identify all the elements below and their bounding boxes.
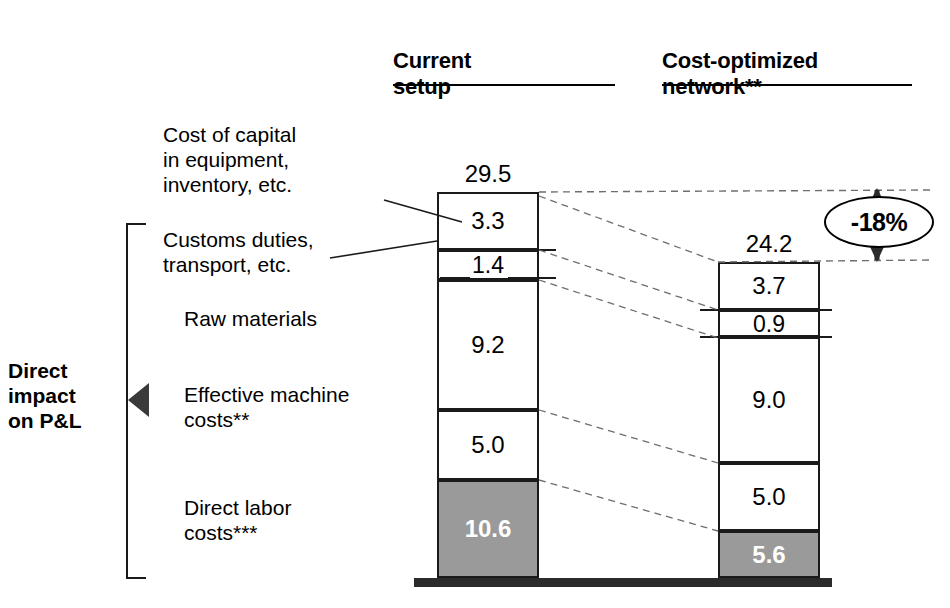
segment-value: 9.0 xyxy=(752,388,785,412)
column-header-optimized-rule xyxy=(662,84,912,86)
column-header-current: Current setup xyxy=(393,22,623,126)
category-label-raw-materials: Raw materials xyxy=(184,306,434,331)
column-header-optimized: Cost-optimized network** xyxy=(662,22,922,126)
segment-value: 1.4 xyxy=(472,253,504,277)
dashed-link-seg-4 xyxy=(539,410,718,463)
dashed-link-seg-1 xyxy=(539,196,718,262)
segment-value: 0.9 xyxy=(753,312,785,336)
chart-baseline xyxy=(414,578,832,587)
percent-change-badge: -18% xyxy=(824,196,934,248)
bar-segment-highlighted[interactable]: 10.6 xyxy=(437,480,539,578)
category-label-cost-of-capital: Cost of capital in equipment, inventory,… xyxy=(163,122,423,197)
bar-segment[interactable]: 9.2 xyxy=(437,280,539,410)
segment-value: 9.2 xyxy=(471,333,504,357)
percent-change-text: -18% xyxy=(851,210,907,235)
column-header-optimized-text: Cost-optimized network** xyxy=(662,48,818,99)
dashed-link-total-top xyxy=(539,190,930,192)
bar-segment[interactable]: 5.0 xyxy=(437,410,539,480)
bar-segment-highlighted[interactable]: 5.6 xyxy=(718,531,820,578)
bar-segment[interactable]: 5.0 xyxy=(718,463,820,531)
bar-segment[interactable]: 1.4 xyxy=(437,250,539,280)
chart-canvas: Current setup Cost-optimized network** C… xyxy=(0,0,950,608)
bar-total-optimized: 24.2 xyxy=(718,232,820,256)
segment-value: 5.0 xyxy=(752,485,785,509)
category-label-direct-labor-costs: Direct labor costs*** xyxy=(184,495,434,545)
segment-value: 10.6 xyxy=(465,517,512,541)
direct-impact-label: Direct impact on P&L xyxy=(8,358,140,433)
bar-total-current: 29.5 xyxy=(437,162,539,186)
category-label-customs-duties: Customs duties, transport, etc. xyxy=(163,227,423,277)
bar-segment[interactable]: 3.7 xyxy=(718,262,820,310)
segment-value: 5.6 xyxy=(752,543,785,567)
stacked-bar-cost-optimized: 3.7 0.9 9.0 5.0 5.6 xyxy=(718,262,820,578)
dashed-link-seg-2 xyxy=(539,250,718,310)
dashed-link-seg-5 xyxy=(539,480,718,531)
stacked-bar-current-setup: 3.3 1.4 9.2 5.0 10.6 xyxy=(437,192,539,578)
bar-segment[interactable]: 0.9 xyxy=(718,310,820,337)
column-header-current-text: Current setup xyxy=(393,48,471,99)
column-header-current-rule xyxy=(393,84,615,86)
bracket-pointer-triangle-icon xyxy=(128,383,149,417)
category-label-effective-machine-costs: Effective machine costs** xyxy=(184,382,434,432)
bar-segment[interactable]: 3.3 xyxy=(437,192,539,250)
dashed-link-seg-3 xyxy=(539,280,718,338)
segment-value: 3.3 xyxy=(471,209,504,233)
segment-value: 3.7 xyxy=(752,274,785,298)
bar-segment[interactable]: 9.0 xyxy=(718,337,820,463)
segment-value: 5.0 xyxy=(471,433,504,457)
